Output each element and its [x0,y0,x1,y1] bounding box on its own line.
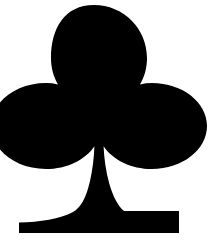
image-canvas: Black club suit symbol ♣ [0,0,224,245]
club-suit-graphic: Black club suit symbol [0,0,224,245]
